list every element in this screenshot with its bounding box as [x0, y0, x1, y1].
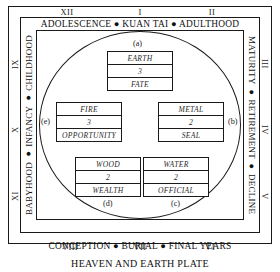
heaven-and-earth-plate-figure: XII I II VIII VII VI IX X XI III IV V AD… — [0, 0, 280, 272]
element-box-c: WATER 2 OFFICIAL — [143, 157, 209, 197]
element-number: 3 — [57, 116, 121, 129]
element-name: FIRE — [57, 103, 121, 116]
element-name: EARTH — [108, 52, 172, 65]
band-bottom-life-stages: CONCEPTION ● BURIAL ● FINAL YEARS — [22, 241, 258, 251]
band-left-life-stages: BABYHOOD ● INFANCY ● CHILDHOOD — [22, 30, 35, 220]
numeral-i: I — [120, 7, 160, 17]
numeral-ix: IX — [10, 44, 20, 84]
numeral-ii: II — [192, 7, 232, 17]
element-box-e: FIRE 3 OPPORTUNITY — [56, 102, 122, 142]
numeral-iii: III — [260, 44, 270, 84]
band-top-life-stages: ADOLESCENCE ● KUAN TAI ● ADULTHOOD — [22, 19, 258, 29]
band-right-life-stages: MATURITY ● RETIREMENT ● DECLINE — [245, 30, 258, 220]
element-meaning: WEALTH — [76, 184, 140, 196]
numeral-v: V — [260, 176, 270, 216]
callout-label-c: (c) — [171, 199, 180, 208]
element-box-a: EARTH 3 FATE — [107, 51, 173, 91]
element-meaning: OPPORTUNITY — [57, 129, 121, 141]
element-name: WOOD — [76, 158, 140, 171]
numeral-xi: XI — [10, 176, 20, 216]
figure-caption: HEAVEN AND EARTH PLATE — [0, 258, 280, 269]
callout-label-b: (b) — [228, 117, 238, 126]
element-name: WATER — [144, 158, 208, 171]
numeral-x: X — [10, 110, 20, 150]
callout-label-a: (a) — [133, 39, 142, 48]
element-number: 2 — [159, 116, 223, 129]
numeral-iv: IV — [260, 110, 270, 150]
callout-label-e: (e) — [41, 117, 50, 126]
element-number: 3 — [108, 65, 172, 78]
element-meaning: OFFICIAL — [144, 184, 208, 196]
element-meaning: FATE — [108, 78, 172, 90]
callout-label-d: (d) — [103, 199, 113, 208]
element-meaning: SEAL — [159, 129, 223, 141]
element-number: 2 — [144, 171, 208, 184]
element-box-b: METAL 2 SEAL — [158, 102, 224, 142]
element-name: METAL — [159, 103, 223, 116]
numeral-xii: XII — [47, 7, 87, 17]
element-number: 2 — [76, 171, 140, 184]
element-box-d: WOOD 2 WEALTH — [75, 157, 141, 197]
